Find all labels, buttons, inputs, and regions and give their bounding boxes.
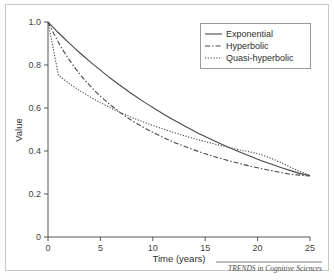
figure-container: 00.20.40.60.81.0 0510152025 Time (years)…	[0, 0, 334, 280]
x-tick-label: 10	[148, 243, 158, 253]
x-axis-ticks: 0510152025	[45, 237, 315, 253]
footer-credit-group: TRENDS in Cognitive Sciences	[216, 262, 322, 273]
y-tick-label: 1.0	[28, 17, 41, 27]
x-tick-label: 5	[98, 243, 103, 253]
legend-label-quasi-hyperbolic: Quasi-hyperbolic	[226, 53, 294, 63]
x-tick-label: 15	[200, 243, 210, 253]
footer-credit: TRENDS in Cognitive Sciences	[228, 264, 322, 273]
y-axis-title: Value	[13, 118, 24, 142]
legend: Exponential Hyperbolic Quasi-hyperbolic	[201, 24, 311, 69]
y-tick-label: 0.4	[28, 146, 41, 156]
y-tick-label: 0.8	[28, 60, 41, 70]
x-axis-title: Time (years)	[153, 253, 206, 264]
y-axis-ticks: 00.20.40.60.81.0	[28, 17, 48, 242]
legend-label-hyperbolic: Hyperbolic	[226, 41, 269, 51]
legend-label-exponential: Exponential	[226, 29, 273, 39]
y-tick-label: 0.2	[28, 189, 41, 199]
x-tick-label: 25	[305, 243, 315, 253]
y-tick-label: 0	[36, 232, 41, 242]
chart-canvas: 00.20.40.60.81.0 0510152025 Time (years)…	[0, 0, 334, 280]
x-tick-label: 20	[253, 243, 263, 253]
x-tick-label: 0	[45, 243, 50, 253]
y-tick-label: 0.6	[28, 103, 41, 113]
